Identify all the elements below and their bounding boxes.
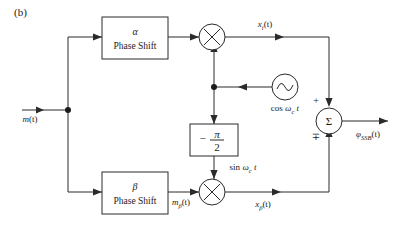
arrowhead-lower-mixer-carrier <box>210 170 217 179</box>
summer-sign-top: + <box>313 95 319 106</box>
junction-dot-input <box>65 107 71 113</box>
upper-multiplier[interactable] <box>199 24 225 50</box>
carrier-oscillator[interactable] <box>272 74 298 100</box>
label-lower-mixer-output: xβ(t) <box>254 199 271 211</box>
beta-block-label: Phase Shift <box>113 196 156 206</box>
arrowhead-xbeta <box>272 188 281 195</box>
label-upper-mixer-output: xi(t) <box>257 19 272 31</box>
summer-symbol: Σ <box>326 115 332 127</box>
panel-label: (b) <box>14 6 27 19</box>
alpha-phase-shift-block[interactable]: α Phase Shift <box>102 17 168 59</box>
quadrature-numerator-pi: π <box>214 128 220 140</box>
beta-phase-shift-block[interactable]: β Phase Shift <box>102 172 168 214</box>
arrowhead-alpha-in <box>93 33 102 40</box>
ssb-modulator-diagram: (b) <box>0 0 402 226</box>
label-carrier-cosine: cos ωc t <box>271 103 300 115</box>
arrowhead-upper-mixer-in <box>190 33 199 40</box>
quadrature-denominator-two: 2 <box>214 141 220 153</box>
summer-sign-bottom: ∓ <box>312 131 320 142</box>
arrowhead-input <box>36 107 44 114</box>
alpha-block-label: Phase Shift <box>113 41 156 51</box>
diagram-canvas: (b) <box>0 0 402 226</box>
beta-block-symbol: β <box>132 181 138 192</box>
arrowhead-summer-top-in <box>325 98 332 107</box>
quadrature-phase-shift-block[interactable]: − π 2 <box>190 124 238 156</box>
label-output-signal: φSSB(t) <box>356 129 380 141</box>
label-hilbert-signal: mβ(t) <box>172 197 190 209</box>
label-input-signal: m(t) <box>23 114 38 124</box>
arrowhead-carrier <box>238 83 247 90</box>
label-carrier-sine: sin ωc t <box>230 162 257 174</box>
arrowhead-quad-block-in <box>210 115 217 124</box>
arrowhead-output <box>379 117 388 124</box>
quadrature-minus-sign: − <box>199 132 206 144</box>
arrowhead-lower-mixer-in <box>190 188 199 195</box>
junction-dot-carrier <box>211 84 217 90</box>
arrowhead-beta-in <box>93 188 102 195</box>
lower-multiplier[interactable] <box>199 179 225 205</box>
alpha-block-symbol: α <box>132 26 138 37</box>
beta-block-outline <box>102 172 168 214</box>
alpha-block-outline <box>102 17 168 59</box>
arrowhead-xi <box>275 33 284 40</box>
